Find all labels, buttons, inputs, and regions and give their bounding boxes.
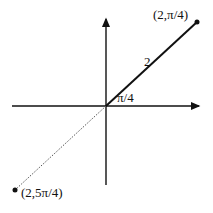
diagram-canvas: (2,π/4) (2,5π/4) 2 π/4 — [0, 0, 213, 213]
point-upper-dot — [195, 20, 200, 25]
dotted-ray — [15, 106, 106, 190]
radius-label: 2 — [144, 54, 151, 69]
point-lower-dot — [13, 188, 18, 193]
point-upper-label: (2,π/4) — [153, 7, 188, 22]
angle-label: π/4 — [117, 90, 134, 105]
point-lower-label: (2,5π/4) — [21, 185, 63, 200]
polar-diagram: (2,π/4) (2,5π/4) 2 π/4 — [0, 0, 213, 213]
